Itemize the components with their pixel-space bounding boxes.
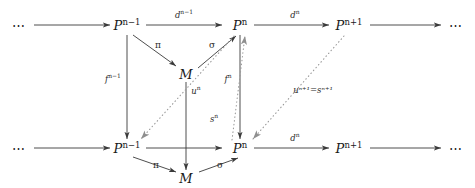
node-exponent: n+1 (344, 140, 362, 150)
node-base: P (233, 18, 242, 33)
node-base: M (179, 67, 193, 82)
node-top-p-n-minus-1: Pn−1 (114, 17, 141, 33)
node-base: P (233, 141, 242, 156)
vertical-chain-maps (127, 35, 240, 139)
commutative-diagram: ⋯ ⋯ ⋯ ⋯ Pn−1 Pn Pn+1 M Pn−1 Pn Pn+1 M dn… (0, 0, 475, 188)
node-bottom-p-n-minus-1: Pn−1 (114, 140, 141, 156)
arrow-top-m-to-pn-sigma (198, 36, 236, 68)
node-bottom-p-n-plus-1: Pn+1 (336, 140, 363, 156)
edge-label-u-n-plus-1-equals-s-n-plus-1: uⁿ⁺¹=sⁿ⁺¹ (293, 85, 333, 95)
node-base: P (114, 141, 123, 156)
node-top-p-n-plus-1: Pn+1 (336, 17, 363, 33)
edge-label-s-n: sn (210, 112, 218, 124)
node-exponent: n+1 (344, 17, 362, 27)
ellipsis-bottom-right: ⋯ (449, 141, 465, 156)
edge-label-top-d-n-minus-1: dn−1 (175, 8, 193, 20)
edge-label-u-n: un (191, 84, 200, 96)
node-exponent: n−1 (122, 140, 140, 150)
node-top-p-n: Pn (233, 17, 247, 33)
edge-label-f-n-minus-1: fn−1 (105, 72, 121, 84)
edge-exponent: n (296, 8, 300, 15)
top-factorization-triangle (133, 35, 236, 68)
edge-exponent: n (214, 112, 218, 119)
node-exponent: n (242, 140, 247, 150)
node-bottom-m: M (179, 170, 193, 186)
ellipsis-bottom-left: ⋯ (12, 141, 28, 156)
edge-exponent: n−1 (108, 72, 121, 79)
ellipsis-top-right: ⋯ (449, 18, 465, 33)
node-base: P (336, 141, 345, 156)
edge-exponent: n (197, 84, 201, 91)
node-base: M (179, 171, 193, 186)
node-base: P (336, 18, 345, 33)
edge-label-bottom-pi: π (153, 160, 159, 170)
node-base: P (114, 18, 123, 33)
edge-exponent: n (296, 131, 300, 138)
edge-label-bottom-d-n: dn (290, 131, 299, 143)
edge-exponent: n−1 (180, 8, 193, 15)
arrow-homotopy-top-pn-to-bottom-pn1 (141, 36, 234, 139)
node-bottom-p-n: Pn (233, 140, 247, 156)
node-exponent: n−1 (122, 17, 140, 27)
edge-label-bottom-sigma: σ (217, 160, 223, 170)
ellipsis-top-left: ⋯ (12, 18, 28, 33)
edge-exponent: n (228, 72, 232, 79)
edge-label-top-sigma: σ (209, 40, 215, 50)
edge-label-f-n: fn (224, 72, 231, 84)
edge-label-top-pi: π (155, 40, 161, 50)
arrow-homotopy-s-n (232, 36, 245, 140)
node-top-m: M (179, 66, 193, 82)
edge-label-top-d-n: dn (290, 8, 299, 20)
node-exponent: n (242, 17, 247, 27)
